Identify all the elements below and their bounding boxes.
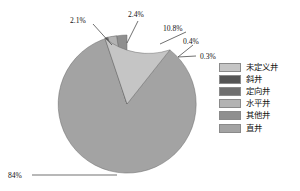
legend-item-label: 其他井 — [246, 111, 270, 120]
legend-item-label: 定向井 — [246, 87, 270, 96]
legend-item-label: 斜井 — [246, 75, 262, 84]
legend-item-qitajing[interactable]: 其他井 — [219, 110, 298, 122]
legend-item-dingxiangjing[interactable]: 定向井 — [219, 85, 298, 97]
legend-swatch-icon — [219, 111, 241, 120]
legend-swatch-icon — [219, 63, 241, 72]
leader-line-0-3 — [178, 56, 196, 57]
legend-item-weidingyijing[interactable]: 未定义井 — [219, 61, 298, 73]
legend-item-zhijing[interactable]: 直井 — [219, 122, 298, 134]
legend-item-label: 未定义井 — [246, 63, 278, 72]
legend-swatch-icon — [219, 99, 241, 108]
callout-2-4: 2.4% — [128, 10, 144, 19]
legend-swatch-icon — [219, 87, 241, 96]
callout-84: 84% — [8, 171, 23, 180]
legend-swatch-icon — [219, 124, 241, 133]
callout-10-8: 10.8% — [163, 24, 183, 33]
pie-chart: 2.1% 2.4% 10.8% 0.4% 0.3% 84% 未定义井 斜井 定向… — [0, 0, 300, 191]
legend-item-xiejing[interactable]: 斜井 — [219, 73, 298, 85]
legend-item-label: 直井 — [246, 124, 262, 133]
leader-line-2-4 — [127, 21, 138, 43]
legend-item-shuipingjing[interactable]: 水平井 — [219, 98, 298, 110]
leader-line-0-4 — [178, 45, 193, 57]
legend-item-label: 水平井 — [246, 99, 270, 108]
callout-2-1: 2.1% — [70, 16, 86, 25]
legend: 未定义井 斜井 定向井 水平井 其他井 直井 — [219, 61, 298, 134]
callout-0-3: 0.3% — [200, 52, 216, 61]
callout-0-4: 0.4% — [183, 37, 199, 46]
legend-swatch-icon — [219, 75, 241, 84]
